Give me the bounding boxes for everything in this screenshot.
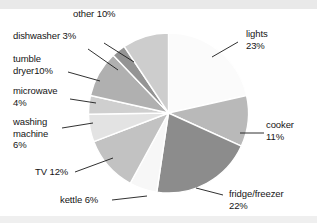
slice-label-fridge-freezer: fridge/freezer 22% <box>229 188 284 211</box>
slice-label-tv: TV 12% <box>35 166 68 178</box>
slice-label-microwave: microwave 4% <box>13 85 58 108</box>
leader-line-tumble-dryer <box>68 72 100 81</box>
slice-label-dishwasher: dishwasher 3% <box>13 30 76 42</box>
leader-line-kettle <box>112 196 147 200</box>
leader-line-fridge-freezer <box>196 188 223 195</box>
pie-slice-group <box>89 33 249 193</box>
leader-line-washing-machine <box>62 123 93 128</box>
pie-chart-screenshot: other 10% dishwasher 3% tumble dryer10% … <box>0 0 317 223</box>
slice-label-washing-machine: washing machine 6% <box>13 116 48 151</box>
slice-label-other: other 10% <box>73 8 115 20</box>
slice-label-lights: lights 23% <box>246 28 268 51</box>
slice-label-cooker: cooker 11% <box>266 119 294 142</box>
slice-label-tumble-dryer: tumble dryer10% <box>13 53 53 76</box>
slice-label-kettle: kettle 6% <box>60 194 98 206</box>
